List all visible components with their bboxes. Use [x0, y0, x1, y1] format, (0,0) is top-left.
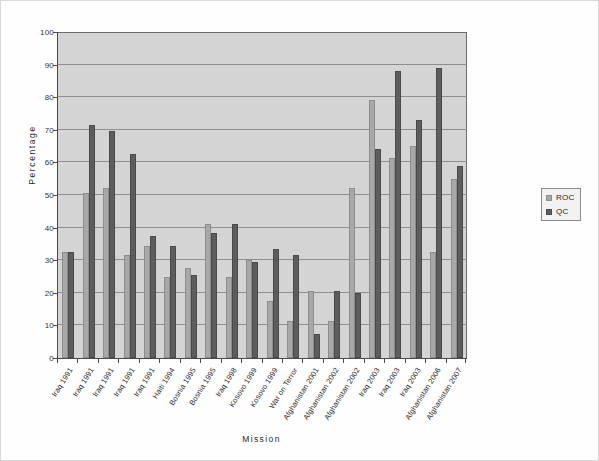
- plot-area: [57, 32, 467, 359]
- bar-qc: [375, 149, 381, 358]
- x-tick-mark: [282, 358, 283, 363]
- x-tick-mark: [98, 358, 99, 363]
- x-tick-mark: [262, 358, 263, 363]
- chart-legend: ROCQC: [541, 188, 581, 221]
- x-tick-mark: [323, 358, 324, 363]
- bar-group: [242, 32, 262, 358]
- y-tick-label-30: 30: [28, 256, 54, 265]
- bar-group: [201, 32, 221, 358]
- x-label-cell: Iraq 2003: [364, 364, 384, 434]
- bar-group: [222, 32, 242, 358]
- x-label-cell: Iraq 1991: [57, 364, 77, 434]
- bar-group: [426, 32, 446, 358]
- y-tick-label-40: 40: [28, 223, 54, 232]
- bar-qc: [355, 293, 361, 358]
- bar-qc: [334, 291, 340, 358]
- y-tick-label-70: 70: [28, 125, 54, 134]
- bar-group: [119, 32, 139, 358]
- bar-qc: [89, 125, 95, 358]
- legend-label: ROC: [556, 193, 575, 202]
- x-label-cell: Iraq 1991: [118, 364, 138, 434]
- legend-label: QC: [556, 207, 569, 216]
- bar-group: [140, 32, 160, 358]
- bar-chart: Percentage 1009080706050403020100 Iraq 1…: [0, 0, 599, 461]
- x-tick-mark: [180, 358, 181, 363]
- bar-qc: [293, 255, 299, 358]
- bar-group: [58, 32, 78, 358]
- bar-group: [78, 32, 98, 358]
- bar-group: [160, 32, 180, 358]
- legend-swatch-qc-icon: [546, 209, 552, 215]
- bar-qc: [130, 154, 136, 358]
- bar-qc: [314, 334, 320, 358]
- y-tick-label-80: 80: [28, 93, 54, 102]
- legend-item-qc[interactable]: QC: [546, 207, 575, 216]
- x-axis-title: Mission: [57, 434, 466, 444]
- bar-qc: [68, 252, 74, 358]
- bar-group: [283, 32, 303, 358]
- bar-group: [324, 32, 344, 358]
- bar-group: [344, 32, 364, 358]
- x-tick-mark: [364, 358, 365, 363]
- bar-qc: [395, 71, 401, 358]
- bar-group: [303, 32, 323, 358]
- x-tick-mark: [77, 358, 78, 363]
- x-tick-mark: [200, 358, 201, 363]
- bar-qc: [232, 224, 238, 358]
- bar-qc: [457, 166, 463, 358]
- bar-group: [263, 32, 283, 358]
- y-tick-label-0: 0: [28, 354, 54, 363]
- bar-qc: [252, 262, 258, 358]
- bar-qc: [170, 246, 176, 358]
- bar-qc: [211, 233, 217, 359]
- x-tick-mark: [118, 358, 119, 363]
- y-tick-label-50: 50: [28, 191, 54, 200]
- y-tick-label-100: 100: [28, 28, 54, 37]
- x-tick-mark: [139, 358, 140, 363]
- bar-group: [365, 32, 385, 358]
- y-tick-label-60: 60: [28, 158, 54, 167]
- y-axis-ticks: 1009080706050403020100: [22, 32, 54, 358]
- x-tick-mark: [302, 358, 303, 363]
- legend-item-roc[interactable]: ROC: [546, 193, 575, 202]
- bar-group: [385, 32, 405, 358]
- x-label-cell: Bosnia 1995: [200, 364, 220, 434]
- bar-qc: [150, 236, 156, 358]
- bar-group: [181, 32, 201, 358]
- legend-swatch-roc-icon: [546, 195, 552, 201]
- x-label-cell: Iraq 2003: [384, 364, 404, 434]
- x-tick-mark: [241, 358, 242, 363]
- x-tick-mark: [343, 358, 344, 363]
- y-tick-label-10: 10: [28, 321, 54, 330]
- bar-series-container: [58, 32, 467, 358]
- x-tick-mark: [425, 358, 426, 363]
- x-tick-mark: [446, 358, 447, 363]
- x-label-cell: Afghanistan 2007: [446, 364, 466, 434]
- x-tick-mark: [405, 358, 406, 363]
- bar-qc: [273, 249, 279, 358]
- bar-qc: [191, 275, 197, 358]
- x-tick-mark: [384, 358, 385, 363]
- x-axis-labels: Iraq 1991Iraq 1991Iraq 1991Iraq 1991Iraq…: [57, 364, 466, 434]
- bar-qc: [436, 68, 442, 358]
- x-tick-mark: [465, 358, 466, 363]
- bar-qc: [109, 131, 115, 358]
- bar-group: [406, 32, 426, 358]
- bar-group: [99, 32, 119, 358]
- bar-qc: [416, 120, 422, 358]
- x-tick-mark: [57, 358, 58, 363]
- x-label-cell: Iraq 1991: [98, 364, 118, 434]
- x-label-cell: Iraq 1991: [77, 364, 97, 434]
- x-tick-mark: [159, 358, 160, 363]
- x-label-cell: Afghanistan 2002: [343, 364, 363, 434]
- y-tick-label-90: 90: [28, 60, 54, 69]
- x-tick-mark: [221, 358, 222, 363]
- y-tick-label-20: 20: [28, 288, 54, 297]
- bar-group: [447, 32, 467, 358]
